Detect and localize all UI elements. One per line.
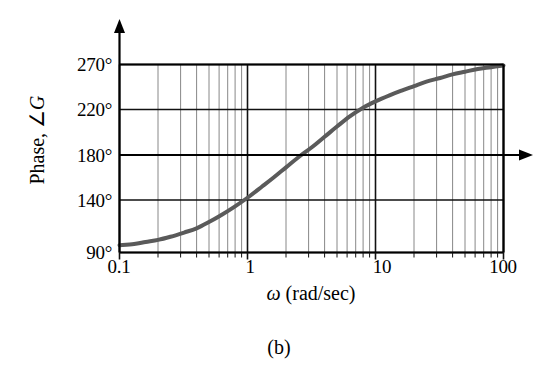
y-axis-title-var: G [26, 95, 48, 109]
angle-symbol-icon: ∠ [26, 110, 48, 128]
bode-phase-figure: 270° 220° 180° 140° 90° 0.1 1 10 100 Pha… [0, 0, 558, 375]
grid-major-group [120, 65, 504, 253]
xtick-label-10: 10 [352, 256, 412, 278]
ytick-label-220: 220° [58, 99, 112, 121]
figure-caption: (b) [0, 336, 558, 359]
xtick-label-0.1: 0.1 [89, 256, 149, 278]
y-axis-title: Phase, ∠G [25, 45, 49, 235]
ytick-label-140: 140° [58, 190, 112, 212]
y-axis-title-prefix: Phase, [26, 128, 48, 185]
xtick-label-100: 100 [473, 256, 533, 278]
omega-symbol: ω [266, 282, 280, 304]
x-axis-title-units: (rad/sec) [281, 282, 356, 304]
x-axis-title: ω (rad/sec) [119, 282, 503, 305]
y-axis-arrowhead-icon [114, 19, 125, 33]
xtick-label-1: 1 [220, 256, 280, 278]
x-axis-arrowhead-icon [519, 150, 533, 161]
ytick-label-180: 180° [58, 145, 112, 167]
ytick-label-270: 270° [58, 54, 112, 76]
